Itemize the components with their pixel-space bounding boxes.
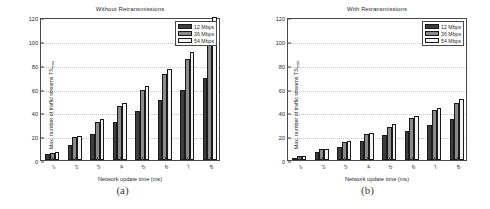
y-axis-label-text: Max. number of traffic streams TS xyxy=(293,68,299,149)
bar xyxy=(414,116,419,160)
legend-item: 36 Mbps xyxy=(425,31,461,37)
x-axis-tick-label: 6 xyxy=(163,163,169,170)
y-axis-tick-label: 120 xyxy=(276,16,285,22)
legend-label: 12 Mbps xyxy=(194,24,214,30)
x-axis-tick-mark xyxy=(120,157,121,160)
x-axis-tick-label: 1 xyxy=(51,163,57,170)
bar-group xyxy=(131,19,154,160)
legend-label: 36 Mbps xyxy=(441,31,461,37)
plot-area-b: 0204060801001201234567812 Mbps36 Mbps54 … xyxy=(287,18,467,161)
x-axis-tick-label: 8 xyxy=(208,163,214,170)
y-axis-tick-label: 40 xyxy=(279,111,285,117)
x-axis-tick-mark xyxy=(187,157,188,160)
x-axis-tick-mark xyxy=(389,157,390,160)
x-axis-tick-mark xyxy=(434,157,435,160)
x-axis-tick-mark xyxy=(299,157,300,160)
bar xyxy=(347,141,352,160)
y-axis-label-b: Max. number of traffic streams TSmax xyxy=(293,60,299,148)
bar-group xyxy=(356,19,379,160)
x-axis-tick-mark xyxy=(457,157,458,160)
x-axis-tick-label: 4 xyxy=(365,163,371,170)
bar xyxy=(167,69,172,160)
x-axis-tick-mark xyxy=(412,157,413,160)
y-axis-label-text: Max. number of traffic streams TS xyxy=(48,68,54,149)
legend-swatch xyxy=(425,38,439,42)
legend-swatch xyxy=(425,31,439,35)
plot-area-a: 0204060801001201234567812 Mbps36 Mbps54 … xyxy=(40,18,220,161)
x-axis-label-b: Network update time (ms) xyxy=(287,176,467,182)
y-axis-tick-label: 80 xyxy=(279,64,285,70)
x-axis-tick-mark xyxy=(142,157,143,160)
x-axis-tick-mark xyxy=(97,157,98,160)
x-axis-tick-label: 8 xyxy=(455,163,461,170)
bar-group xyxy=(86,19,109,160)
y-axis-tick-mark xyxy=(288,162,291,163)
legend-item: 36 Mbps xyxy=(178,31,214,37)
bar-group xyxy=(333,19,356,160)
x-axis-tick-mark xyxy=(322,157,323,160)
x-axis-tick-label: 7 xyxy=(433,163,439,170)
legend-label: 36 Mbps xyxy=(194,31,214,37)
bar xyxy=(190,52,195,160)
bar xyxy=(145,86,150,160)
y-axis-tick-label: 60 xyxy=(279,88,285,94)
figure-two-panel-bar-charts: Without Retransmissions 0204060801001201… xyxy=(0,0,490,209)
y-axis-label-subscript: max xyxy=(295,60,300,67)
legend-swatch xyxy=(178,24,192,28)
legend-swatch xyxy=(178,38,192,42)
bar-group xyxy=(64,19,87,160)
bar xyxy=(392,124,397,160)
y-axis-tick-label: 40 xyxy=(32,111,38,117)
subfigure-caption-a: (a) xyxy=(0,184,245,196)
legend-swatch xyxy=(178,31,192,35)
bar-group xyxy=(401,19,424,160)
x-axis-tick-label: 7 xyxy=(186,163,192,170)
x-axis-tick-mark xyxy=(165,157,166,160)
y-axis-tick-label: 60 xyxy=(32,88,38,94)
y-axis-tick-mark xyxy=(41,162,44,163)
bar-group xyxy=(378,19,401,160)
panel-with-retransmissions: With Retransmissions 0204060801001201234… xyxy=(245,0,490,209)
y-axis-tick-label: 20 xyxy=(279,135,285,141)
bar xyxy=(77,136,82,160)
x-axis-tick-label: 1 xyxy=(298,163,304,170)
legend-item: 12 Mbps xyxy=(178,24,214,30)
x-axis-tick-label: 5 xyxy=(141,163,147,170)
x-axis-tick-label: 2 xyxy=(73,163,79,170)
bar xyxy=(55,152,60,160)
bar-group xyxy=(288,19,311,160)
x-axis-tick-label: 5 xyxy=(388,163,394,170)
bar xyxy=(369,133,374,160)
x-axis-tick-label: 3 xyxy=(96,163,102,170)
y-axis-tick-label: 100 xyxy=(276,40,285,46)
bar xyxy=(459,99,464,160)
legend: 12 Mbps36 Mbps54 Mbps xyxy=(175,21,217,46)
bar xyxy=(122,103,127,160)
legend-label: 54 Mbps xyxy=(194,38,214,44)
panel-title: Without Retransmissions xyxy=(40,6,220,12)
bar xyxy=(302,156,307,160)
panel-without-retransmissions: Without Retransmissions 0204060801001201… xyxy=(0,0,245,209)
y-axis-tick-label: 100 xyxy=(29,40,38,46)
x-axis-label-a: Network update time (ms) xyxy=(40,176,220,182)
bar-group xyxy=(109,19,132,160)
legend-item: 54 Mbps xyxy=(178,38,214,44)
subfigure-caption-b: (b) xyxy=(245,184,490,196)
y-axis-tick-label: 120 xyxy=(29,16,38,22)
x-axis-tick-mark xyxy=(210,157,211,160)
legend-item: 54 Mbps xyxy=(425,38,461,44)
legend-item: 12 Mbps xyxy=(425,24,461,30)
x-axis-tick-mark xyxy=(367,157,368,160)
y-axis-tick-label: 80 xyxy=(32,64,38,70)
bar xyxy=(100,119,105,160)
bar xyxy=(324,149,329,160)
y-axis-tick-label: 0 xyxy=(35,159,38,165)
x-axis-tick-mark xyxy=(52,157,53,160)
x-axis-tick-mark xyxy=(75,157,76,160)
x-axis-tick-label: 2 xyxy=(320,163,326,170)
bar-group xyxy=(154,19,177,160)
y-axis-tick-label: 0 xyxy=(282,159,285,165)
bar xyxy=(437,108,442,160)
y-axis-tick-label: 20 xyxy=(32,135,38,141)
legend: 12 Mbps36 Mbps54 Mbps xyxy=(422,21,464,46)
